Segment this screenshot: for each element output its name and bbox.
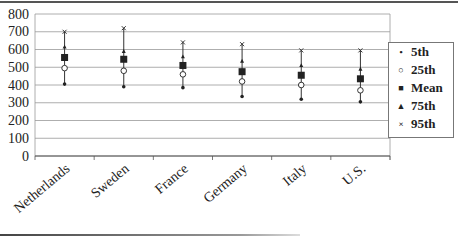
dot-marker-icon: • <box>395 47 407 57</box>
x-tick-label: Germany <box>200 161 250 206</box>
legend-label: 95th <box>411 116 436 132</box>
p25-marker <box>121 68 127 74</box>
x-marker-icon: × <box>395 119 407 129</box>
x-tick-label: Italy <box>280 161 309 189</box>
legend-item-75th: ▲75th <box>389 97 453 115</box>
legend-label: 25th <box>411 62 436 78</box>
x-tick-label: Netherlands <box>11 161 72 216</box>
x-tick-label: France <box>152 161 191 197</box>
p25-marker <box>180 72 186 78</box>
mean-marker <box>357 75 364 82</box>
p5-marker <box>122 85 126 89</box>
x-tick-label: U.S. <box>340 161 369 189</box>
square-marker-icon: ■ <box>395 83 407 93</box>
legend-label: 75th <box>411 98 436 114</box>
p25-marker <box>298 82 304 88</box>
chart-legend: •5th ○25th ■Mean ▲75th ×95th <box>388 42 454 138</box>
mean-marker <box>61 54 68 61</box>
y-tick-label: 100 <box>8 131 29 146</box>
p75-marker <box>63 45 67 49</box>
y-tick-label: 700 <box>8 24 29 39</box>
p5-marker <box>359 100 363 104</box>
p5-marker <box>181 86 185 90</box>
y-tick-label: 0 <box>22 149 29 164</box>
bottom-rule <box>0 234 300 236</box>
p75-marker <box>181 54 185 58</box>
mean-marker <box>120 56 127 63</box>
x-tick-label: Sweden <box>88 161 132 201</box>
y-tick-label: 800 <box>8 7 29 22</box>
p25-marker <box>239 79 245 85</box>
open-circle-marker-icon: ○ <box>395 65 407 75</box>
p75-marker <box>299 63 303 67</box>
p75-marker <box>240 59 244 63</box>
y-tick-label: 500 <box>8 60 29 75</box>
y-tick-label: 300 <box>8 95 29 110</box>
legend-label: 5th <box>411 44 429 60</box>
mean-marker <box>239 68 246 75</box>
y-tick-label: 600 <box>8 42 29 57</box>
y-tick-label: 200 <box>8 113 29 128</box>
p25-marker <box>358 88 364 94</box>
legend-item-mean: ■Mean <box>389 79 453 97</box>
p25-marker <box>62 65 68 71</box>
y-tick-label: 400 <box>8 78 29 93</box>
legend-label: Mean <box>411 80 443 96</box>
legend-item-95th: ×95th <box>389 115 453 133</box>
legend-item-25th: ○25th <box>389 61 453 79</box>
legend-item-5th: •5th <box>389 43 453 61</box>
triangle-marker-icon: ▲ <box>395 101 407 111</box>
p5-marker <box>299 97 303 101</box>
mean-marker <box>179 62 186 69</box>
p5-marker <box>240 95 244 99</box>
mean-marker <box>298 72 305 79</box>
p5-marker <box>63 82 67 86</box>
